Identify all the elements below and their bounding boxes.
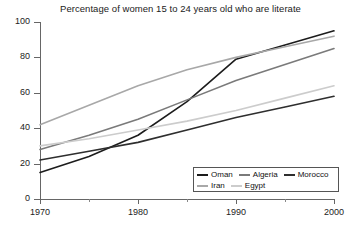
- series-line-iran: [40, 36, 334, 125]
- legend-item-iran[interactable]: Iran: [197, 181, 225, 191]
- legend-swatch-oman-icon: [197, 174, 208, 176]
- legend-label: Iran: [211, 181, 225, 191]
- legend-label: Oman: [211, 170, 233, 180]
- chart-root: Percentage of women 15 to 24 years old w…: [0, 0, 361, 227]
- legend-swatch-egypt-icon: [231, 185, 242, 187]
- legend-row-2: IranEgypt: [197, 180, 335, 191]
- legend-item-oman[interactable]: Oman: [197, 170, 233, 180]
- legend-swatch-algeria-icon: [239, 174, 250, 176]
- series-line-oman: [40, 31, 334, 173]
- legend-label: Egypt: [245, 181, 265, 191]
- legend-item-algeria[interactable]: Algeria: [239, 170, 278, 180]
- chart-legend: OmanAlgeriaMorocco IranEgypt: [193, 167, 339, 192]
- series-line-morocco: [40, 96, 334, 160]
- chart-series-lines: [0, 0, 361, 227]
- legend-item-morocco[interactable]: Morocco: [284, 170, 329, 180]
- legend-label: Algeria: [253, 170, 278, 180]
- legend-swatch-iran-icon: [197, 185, 208, 187]
- legend-label: Morocco: [298, 170, 329, 180]
- legend-swatch-morocco-icon: [284, 174, 295, 176]
- legend-item-egypt[interactable]: Egypt: [231, 181, 265, 191]
- legend-row-1: OmanAlgeriaMorocco: [197, 169, 335, 180]
- series-line-algeria: [40, 49, 334, 150]
